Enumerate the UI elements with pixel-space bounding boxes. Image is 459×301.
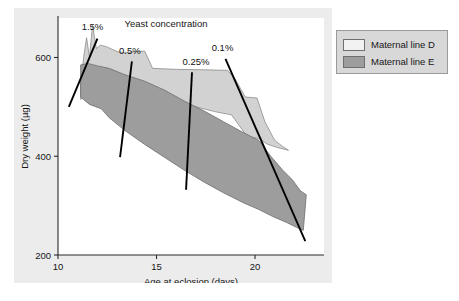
x-tick-label: 10 (53, 261, 64, 272)
x-tick-label: 15 (151, 261, 162, 272)
x-tick-label: 20 (250, 261, 261, 272)
y-tick-label: 400 (35, 151, 51, 162)
annotation-label-15: 1.5% (82, 21, 104, 32)
chart-svg: 1.5%0.5%0.25%0.1%Yeast concentration1015… (14, 8, 332, 283)
chart-title: Yeast concentration (124, 18, 207, 29)
legend-label-maternal-line-d: Maternal line D (371, 40, 435, 50)
y-tick-label: 600 (35, 52, 51, 63)
annotation-label-025: 0.25% (182, 56, 209, 67)
annotation-label-01: 0.1% (212, 42, 234, 53)
legend-label-maternal-line-e: Maternal line E (371, 57, 434, 67)
legend-item-maternal-line-d: Maternal line D (343, 36, 441, 53)
legend-item-maternal-line-e: Maternal line E (343, 53, 441, 70)
annotation-label-05: 0.5% (119, 45, 141, 56)
legend: Maternal line D Maternal line E (336, 30, 448, 74)
figure-panel: 1.5%0.5%0.25%0.1%Yeast concentration1015… (14, 8, 332, 283)
y-axis-title: Dry weight (µg) (19, 104, 30, 169)
legend-swatch-maternal-line-d (343, 39, 365, 51)
legend-swatch-maternal-line-e (343, 56, 365, 68)
x-axis-title: Age at eclosion (days) (144, 276, 238, 283)
y-tick-label: 200 (35, 250, 51, 261)
